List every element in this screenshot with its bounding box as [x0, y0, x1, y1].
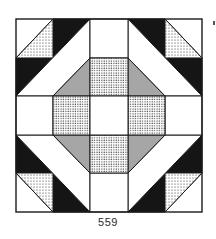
quilt-block-diagram	[0, 0, 216, 239]
edge-mark	[213, 21, 215, 25]
block-number-label: 559	[0, 216, 216, 228]
